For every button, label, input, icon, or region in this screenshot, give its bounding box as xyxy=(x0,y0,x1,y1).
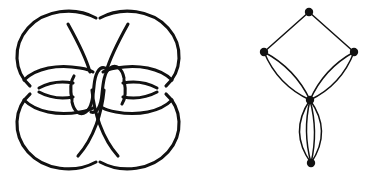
figure-root xyxy=(0,0,382,180)
edge-right-center-inner xyxy=(310,52,354,100)
node-top xyxy=(305,8,313,16)
knot-strand-diagonal-left xyxy=(68,24,90,72)
node-right xyxy=(350,48,358,56)
edge-top-right xyxy=(309,12,354,52)
knot-strand-diagonal-right xyxy=(106,24,128,72)
node-bottom xyxy=(307,159,315,167)
graph-node-group xyxy=(260,8,358,167)
edge-left-center-inner xyxy=(264,52,310,100)
edge-top-left xyxy=(264,12,309,52)
node-left xyxy=(260,48,268,56)
graph-edge-group xyxy=(264,12,354,163)
knot-lens-left-upper xyxy=(24,67,93,81)
edge-left-center-outer xyxy=(264,52,310,100)
edge-center-bottom-3 xyxy=(310,100,315,163)
edge-center-bottom-2 xyxy=(306,100,311,163)
planar-graph-svg xyxy=(195,0,382,180)
knot-arc-top-left-tail xyxy=(39,92,73,98)
knot-diagram-svg xyxy=(0,0,195,180)
planar-graph-panel xyxy=(195,0,382,180)
knot-lens-right-upper xyxy=(103,67,172,81)
knot-lens-right-lower xyxy=(103,100,172,114)
knot-arc-bottom-right-tail xyxy=(123,82,157,88)
edge-right-center-outer xyxy=(310,52,354,100)
knot-arc-top-right-tail xyxy=(123,92,157,98)
node-center xyxy=(306,96,314,104)
knot-arc-bottom-left-tail xyxy=(39,82,73,88)
knot-lens-left-lower xyxy=(24,100,93,114)
knot-diagram-panel xyxy=(0,0,195,180)
